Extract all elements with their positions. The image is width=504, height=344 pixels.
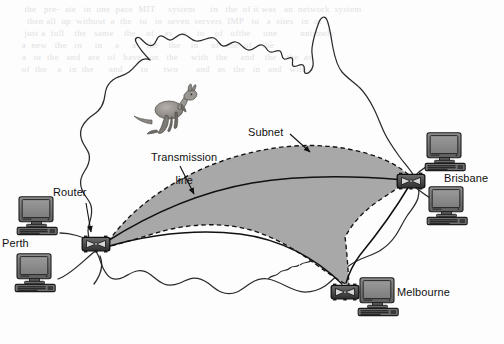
computer-brisbane-1[interactable]: [425, 133, 465, 171]
computer-perth-1[interactable]: [17, 197, 57, 235]
router-brisbane[interactable]: [397, 173, 425, 190]
figure-canvas: the pre- ate in one pace MIT system in t…: [0, 0, 504, 344]
cable-perth-host-2: [58, 252, 94, 279]
annotation-transmission-line-text-1: Transmission: [151, 151, 217, 163]
computer-brisbane-2[interactable]: [427, 187, 467, 225]
kangaroo-icon: [134, 84, 197, 134]
site-label-melbourne: Melbourne: [397, 287, 450, 299]
annotation-router: Router: [53, 187, 87, 199]
computer-perth-2[interactable]: [15, 254, 55, 292]
site-label-brisbane: Brisbane: [444, 173, 488, 185]
annotation-subnet: Subnet: [248, 127, 283, 139]
annotation-transmission-line: Transmission line: [136, 140, 220, 198]
site-label-perth: Perth: [2, 238, 29, 250]
annotation-transmission-line-text-2: line: [176, 174, 194, 186]
router-melbourne[interactable]: [331, 284, 359, 301]
router-perth[interactable]: [82, 236, 110, 253]
computer-melbourne-1[interactable]: [358, 278, 398, 316]
